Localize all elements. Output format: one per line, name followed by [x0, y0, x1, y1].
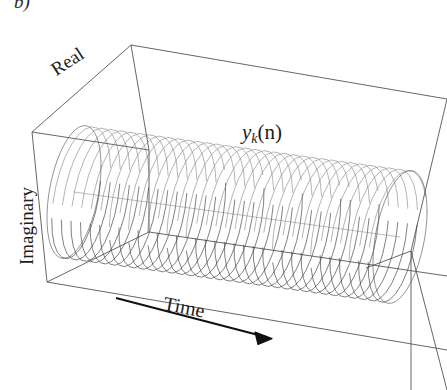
figure-container: b): [0, 0, 447, 390]
helix-center-axis: [74, 192, 400, 237]
axis-label-imaginary: Imaginary: [16, 187, 38, 265]
box-edge-right-front-diagonal: [411, 251, 447, 390]
box-edge-back-top: [131, 45, 447, 99]
signal-annotation: yk(n): [242, 120, 282, 147]
box-edge-bottom-front: [47, 282, 447, 350]
helix-curve: [52, 181, 427, 302]
signal-helix: [47, 126, 427, 304]
box-edge-bottom-left-diagonal: [47, 232, 149, 282]
box-edge-back-vertical: [131, 45, 149, 150]
signal-variable: y: [242, 120, 251, 144]
signal-argument: (n): [258, 120, 283, 144]
